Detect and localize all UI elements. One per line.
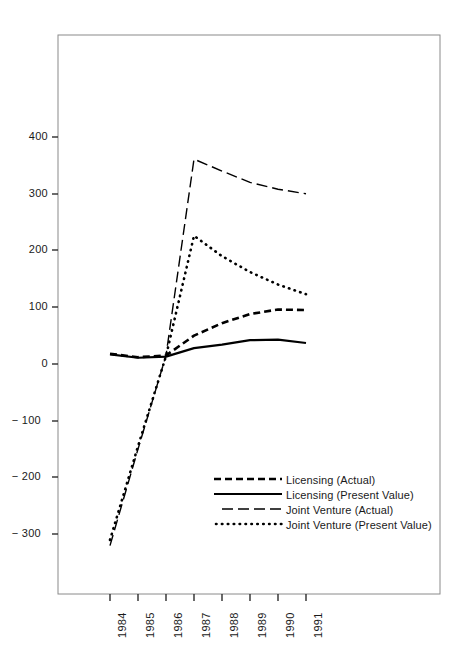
series-line-joint-venture-actual xyxy=(110,159,306,545)
plot-area xyxy=(0,0,465,654)
chart-figure: Thousands of Dollars 400 300 200 100 0 −… xyxy=(0,0,465,654)
series-line-licensing-actual xyxy=(110,310,306,358)
x-tick-marks xyxy=(110,594,306,601)
data-series-group xyxy=(110,159,306,545)
series-line-licensing-present-value xyxy=(110,340,306,358)
legend-swatches xyxy=(214,479,282,524)
y-tick-marks xyxy=(52,137,58,534)
